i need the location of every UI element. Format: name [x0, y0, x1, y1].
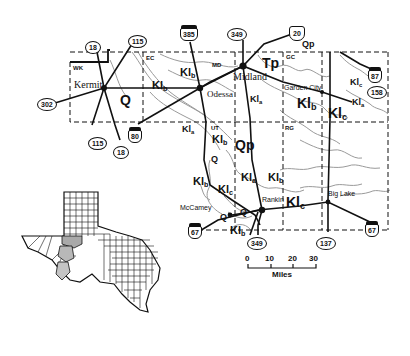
- highway-shield-349-north: 349: [227, 28, 247, 41]
- city-dot-rankin: [259, 207, 265, 213]
- unit-label-Klb-upton: Klb: [212, 134, 227, 147]
- county-label-upton: UT: [211, 125, 219, 131]
- unit-label-Klb-ector-north: Klb: [180, 67, 195, 80]
- county-label-midland: MD: [212, 62, 221, 68]
- unit-label-Q-upton: Q: [211, 155, 218, 164]
- unit-label-Kla-upton: Kla: [241, 172, 256, 185]
- highway-shield-137: 137: [316, 237, 336, 250]
- county-label-winkler: WK: [73, 65, 83, 71]
- unit-label-Klc-upton: Klc: [218, 184, 233, 197]
- unit-label-Q-rankin-west: Q: [240, 208, 247, 217]
- unit-label-Q-mccamey: Q: [220, 213, 227, 222]
- city-dot-mccamey: [228, 213, 233, 218]
- city-label-big-lake: Big Lake: [328, 190, 355, 197]
- unit-label-Q: Q: [120, 93, 131, 107]
- unit-label-Qp: Qp: [235, 138, 254, 152]
- unit-label-Klc-reagan: Klc: [286, 195, 305, 211]
- unit-label-Klb-ector: Klb: [152, 80, 167, 93]
- city-label-rankin: Rankin: [262, 196, 284, 203]
- county-label-glasscock: GC: [286, 54, 295, 60]
- city-label-garden-city: Garden City: [284, 84, 321, 91]
- city-label-mccamey: McCamey: [180, 204, 212, 211]
- highway-shield-us-80: 80: [128, 130, 142, 143]
- highway-shield-18-south: 18: [113, 146, 129, 159]
- city-dot-big-lake: [326, 200, 331, 205]
- scale-tick-10: 10: [265, 255, 274, 263]
- county-label-reagan: RG: [285, 125, 294, 131]
- city-label-midland: Midland: [233, 72, 267, 82]
- highway-shield-interstate-20: 20: [289, 26, 305, 41]
- unit-label-Kla-odessa-south: Kla: [182, 125, 194, 136]
- city-label-kermit: Kermit: [74, 80, 102, 90]
- highway-shield-us-87: 87: [368, 70, 382, 83]
- city-dot-odessa: [197, 85, 203, 91]
- highway-shield-349-south: 349: [247, 237, 267, 250]
- unit-label-Klb-glasscock: Klb: [297, 96, 317, 112]
- unit-label-Klb-reagan: Klb: [268, 172, 283, 185]
- county-label-ector: EC: [146, 55, 154, 61]
- unit-label-Klb-upton-west: Klb: [193, 176, 208, 189]
- highway-shield-302: 302: [37, 98, 57, 111]
- highway-shield-us-67-east: 67: [365, 224, 379, 237]
- unit-label-Klc-east: Klc: [328, 106, 347, 122]
- highway-shield-158: 158: [367, 86, 387, 99]
- texas-inset: [22, 192, 160, 312]
- unit-label-Tp: Tp: [262, 56, 279, 70]
- city-label-odessa: Odessa: [207, 90, 233, 99]
- unit-label-Kla-midland: Kla: [250, 95, 262, 106]
- unit-label-Kla-east: Kla: [352, 98, 364, 109]
- scale-tick-0: 0: [245, 255, 249, 263]
- scale-tick-20: 20: [288, 255, 297, 263]
- unit-label-Qp-north: Qp: [302, 40, 315, 49]
- highway-shield-us-67-west: 67: [188, 226, 202, 239]
- scale-unit-label: Miles: [272, 271, 292, 279]
- unit-label-Klb-south: Klb: [230, 225, 245, 238]
- scale-tick-30: 30: [309, 255, 318, 263]
- highway-shield-us-385: 385: [180, 28, 198, 41]
- unit-label-Klc-northeast: Klc: [350, 78, 362, 89]
- scale-bar: [248, 264, 316, 268]
- highway-shield-18-north: 18: [85, 41, 101, 54]
- city-dot-midland: [239, 62, 246, 69]
